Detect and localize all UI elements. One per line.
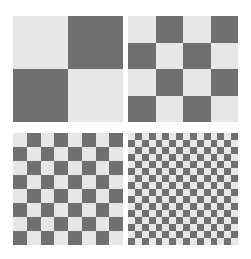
checkerboard-cell xyxy=(176,189,183,196)
checkerboard-cell xyxy=(149,217,156,224)
checkerboard-cell xyxy=(169,154,176,161)
checkerboard-cell xyxy=(183,168,190,175)
checkerboard-cell xyxy=(149,238,156,245)
checkerboard-cell xyxy=(68,231,82,245)
checkerboard-cell xyxy=(211,231,218,238)
checkerboard-cell xyxy=(162,210,169,217)
checkerboard-cell xyxy=(176,133,183,140)
checkerboard-cell xyxy=(54,217,68,231)
checkerboard-cell xyxy=(204,168,211,175)
checkerboard-cell xyxy=(156,43,184,70)
checkerboard-cell xyxy=(169,182,176,189)
checkerboard-cell xyxy=(169,231,176,238)
checkerboard-cell xyxy=(156,196,163,203)
checkerboard-cell xyxy=(224,140,231,147)
checkerboard-cell xyxy=(217,175,224,182)
checkerboard-cell xyxy=(211,210,218,217)
checkerboard-cell xyxy=(156,161,163,168)
checkerboard-cell xyxy=(176,147,183,154)
checkerboard-cell xyxy=(142,203,149,210)
checkerboard-cell xyxy=(149,161,156,168)
checkerboard-cell xyxy=(211,203,218,210)
checkerboard-cell xyxy=(162,140,169,147)
checkerboard-cell xyxy=(169,133,176,140)
checkerboard-panel-bottom-right xyxy=(128,133,238,245)
checkerboard-cell xyxy=(96,189,110,203)
checkerboard-cell xyxy=(231,210,238,217)
checkerboard-cell xyxy=(156,154,163,161)
checkerboard-cell xyxy=(128,147,135,154)
checkerboard-cell xyxy=(27,189,41,203)
checkerboard-cell xyxy=(135,196,142,203)
checkerboard-cell xyxy=(82,175,96,189)
checkerboard-cell xyxy=(190,182,197,189)
checkerboard-cell xyxy=(183,217,190,224)
checkerboard-cell xyxy=(231,231,238,238)
checkerboard-cell xyxy=(27,175,41,189)
checkerboard-cell xyxy=(211,161,218,168)
checkerboard-cell xyxy=(224,168,231,175)
checkerboard-cell xyxy=(149,231,156,238)
checkerboard-cell xyxy=(197,140,204,147)
checkerboard-cell xyxy=(149,196,156,203)
checkerboard-cell xyxy=(156,16,184,43)
checkerboard-cell xyxy=(231,196,238,203)
checkerboard-cell xyxy=(128,96,156,123)
checkerboard-cell xyxy=(162,231,169,238)
checkerboard-cell xyxy=(204,175,211,182)
checkerboard-cell xyxy=(142,189,149,196)
checkerboard-cell xyxy=(190,210,197,217)
checkerboard-cell xyxy=(135,210,142,217)
checkerboard-cell xyxy=(183,182,190,189)
checkerboard-cell xyxy=(68,133,82,147)
checkerboard-cell xyxy=(142,217,149,224)
checkerboard-cell xyxy=(204,182,211,189)
checkerboard-cell xyxy=(183,189,190,196)
checkerboard-cell xyxy=(54,161,68,175)
checkerboard-cell xyxy=(211,147,218,154)
checkerboard-cell xyxy=(135,147,142,154)
checkerboard-cell xyxy=(156,96,184,123)
checkerboard-cell xyxy=(142,231,149,238)
checkerboard-cell xyxy=(176,196,183,203)
checkerboard-cell xyxy=(13,16,68,69)
checkerboard-cell xyxy=(142,238,149,245)
checkerboard-cell xyxy=(68,175,82,189)
checkerboard-panel-bottom-left xyxy=(13,133,123,245)
checkerboard-cell xyxy=(82,189,96,203)
checkerboard-cell xyxy=(162,217,169,224)
checkerboard-cell xyxy=(211,168,218,175)
checkerboard-cell xyxy=(96,175,110,189)
checkerboard-cell xyxy=(156,175,163,182)
checkerboard-cell xyxy=(224,210,231,217)
checkerboard-cell xyxy=(211,133,218,140)
checkerboard-cell xyxy=(142,154,149,161)
checkerboard-cell xyxy=(217,196,224,203)
checkerboard-cell xyxy=(41,133,55,147)
checkerboard-cell xyxy=(135,217,142,224)
checkerboard-cell xyxy=(176,168,183,175)
checkerboard-cell xyxy=(128,43,156,70)
checkerboard-cell xyxy=(128,133,135,140)
checkerboard-cell xyxy=(68,161,82,175)
checkerboard-cell xyxy=(128,161,135,168)
checkerboard-cell xyxy=(197,154,204,161)
checkerboard-cell xyxy=(27,147,41,161)
checkerboard-cell xyxy=(162,196,169,203)
checkerboard-cell xyxy=(135,140,142,147)
checkerboard-cell xyxy=(162,168,169,175)
checkerboard-cell xyxy=(41,161,55,175)
checkerboard-cell xyxy=(135,189,142,196)
checkerboard-cell xyxy=(183,69,211,96)
checkerboard-cell xyxy=(41,231,55,245)
checkerboard-cell xyxy=(231,147,238,154)
checkerboard-cell xyxy=(204,224,211,231)
checkerboard-cell xyxy=(217,210,224,217)
checkerboard-cell xyxy=(149,168,156,175)
checkerboard-cell xyxy=(135,175,142,182)
checkerboard-cell xyxy=(190,203,197,210)
checkerboard-cell xyxy=(176,182,183,189)
checkerboard-cell xyxy=(128,196,135,203)
checkerboard-cell xyxy=(224,189,231,196)
checkerboard-cell xyxy=(128,189,135,196)
